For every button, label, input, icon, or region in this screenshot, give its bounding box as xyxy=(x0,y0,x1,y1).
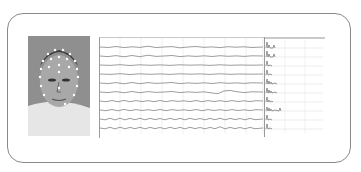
spectrum-plots xyxy=(265,37,325,137)
eeg-traces xyxy=(100,38,265,138)
spectrum-header-bar xyxy=(265,37,325,39)
spectrum-panel xyxy=(264,37,325,137)
subject-illustration xyxy=(28,36,90,136)
eeg-subject-photo xyxy=(28,36,90,136)
eeg-trace-panel xyxy=(99,37,265,138)
